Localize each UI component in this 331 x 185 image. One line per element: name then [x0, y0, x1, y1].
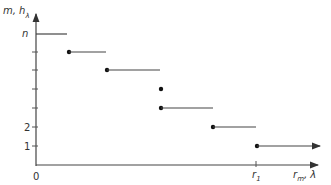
y-tick-label-2: 2: [24, 122, 30, 133]
origin-label: 0: [33, 171, 39, 182]
x-axis-label: rm, λ: [293, 169, 316, 183]
y-tick-label-n: n: [22, 28, 28, 39]
y-ticks: [32, 52, 38, 146]
step-chart: m, hλ n 2 1 0 r1 rm, λ: [0, 0, 331, 185]
y-axis-label: m, hλ: [3, 5, 30, 20]
x-tick-label-r1: r1: [252, 169, 261, 183]
y-tick-label-1: 1: [24, 141, 30, 152]
dot-n-3: [159, 87, 163, 91]
step-series: [36, 34, 320, 148]
